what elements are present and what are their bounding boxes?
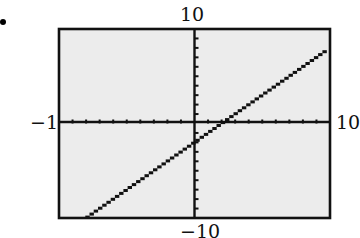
graphing-calculator-window — [0, 0, 354, 232]
